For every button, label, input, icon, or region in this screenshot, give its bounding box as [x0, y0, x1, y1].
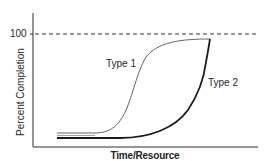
series-type-1-curve	[57, 39, 210, 133]
y-axis-label: Percent Completion	[16, 48, 26, 136]
y-tick-label-100: 100	[10, 29, 27, 39]
series-label-type-1: Type 1	[106, 59, 136, 69]
series-label-type-2: Type 2	[208, 78, 238, 88]
x-axis-label: Time/Resource	[111, 151, 180, 161]
